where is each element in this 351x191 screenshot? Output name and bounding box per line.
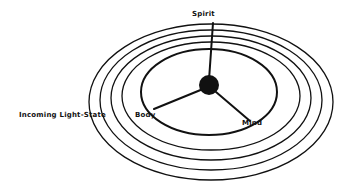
center-node bbox=[199, 75, 219, 95]
label-body: Body bbox=[135, 111, 156, 119]
light-state-diagram bbox=[0, 0, 351, 191]
body-axis bbox=[154, 89, 203, 109]
label-incoming-light-state: Incoming Light-State bbox=[19, 111, 106, 119]
label-spirit: Spirit bbox=[192, 10, 215, 18]
mind-axis bbox=[216, 92, 250, 121]
spirit-axis bbox=[209, 23, 213, 80]
label-mind: Mind bbox=[242, 119, 262, 127]
